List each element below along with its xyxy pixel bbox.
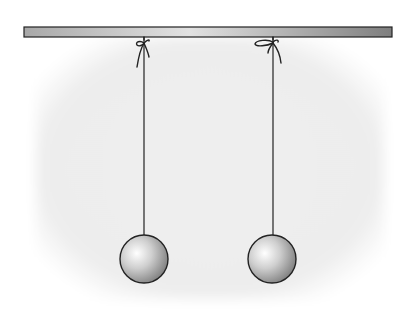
support-bar: [24, 27, 392, 37]
background-shade: [36, 37, 384, 299]
ball-right: [248, 235, 296, 283]
pendulum-diagram: [0, 0, 406, 309]
ball-left: [120, 235, 168, 283]
